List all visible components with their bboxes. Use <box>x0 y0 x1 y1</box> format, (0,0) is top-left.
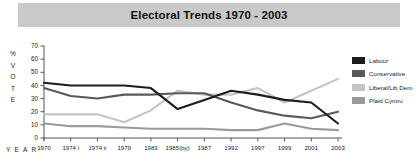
x-tick-label: 1999 <box>278 144 292 151</box>
legend-item: Labour <box>352 57 412 64</box>
legend-swatch-icon <box>352 70 365 77</box>
x-tick-label: 1979 <box>117 144 131 151</box>
legend-swatch-icon <box>352 84 365 91</box>
x-tick-label: 1985(by) <box>166 144 190 151</box>
series-line-plaid-cymru <box>44 124 338 131</box>
x-tick-label: 1987 <box>198 144 212 151</box>
y-tick-label: 30 <box>31 95 39 102</box>
legend-swatch-icon <box>352 57 365 64</box>
y-tick-label: 50 <box>31 68 39 75</box>
x-tick-label: 1997 <box>251 144 265 151</box>
y-tick-label: 40 <box>31 82 39 89</box>
legend-item: Liberal/Lib Dem <box>352 84 412 91</box>
x-tick-label: 1970 <box>37 144 51 151</box>
x-tick-label: 1974 ii <box>88 144 106 151</box>
x-tick-label: 2003 <box>331 144 345 151</box>
y-tick-label: 20 <box>31 108 39 115</box>
x-tick-label: 1983 <box>144 144 158 151</box>
chart-legend: LabourConservativeLiberal/Lib DemPlaid C… <box>352 57 412 104</box>
legend-item-label: Plaid Cymru <box>369 97 403 104</box>
x-tick-label: 1974 i <box>62 144 79 151</box>
x-tick-label: 1992 <box>224 144 238 151</box>
legend-item: Conservative <box>352 70 412 77</box>
x-tick-label: 2001 <box>304 144 318 151</box>
chart-screenshot: Electoral Trends 1970 - 2003 % V O T E Y… <box>0 0 418 162</box>
y-tick-label: 0 <box>34 134 38 141</box>
legend-item-label: Labour <box>369 57 388 64</box>
legend-swatch-icon <box>352 97 365 104</box>
y-tick-label: 70 <box>31 42 39 49</box>
legend-item-label: Conservative <box>369 70 405 77</box>
y-tick-label: 10 <box>31 121 39 128</box>
y-tick-label: 60 <box>31 55 39 62</box>
legend-item: Plaid Cymru <box>352 97 412 104</box>
legend-item-label: Liberal/Lib Dem <box>369 84 412 91</box>
